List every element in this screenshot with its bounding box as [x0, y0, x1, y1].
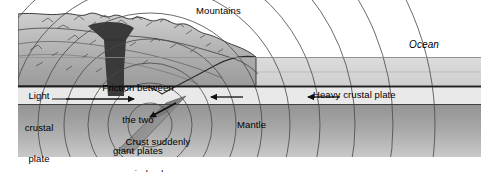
label-light-crustal-plate-line-1: Light	[14, 91, 64, 102]
label-mantle: Mantle	[237, 120, 266, 131]
label-light-crustal-plate-line-2: crustal	[14, 123, 64, 134]
diagram-canvas	[0, 0, 500, 172]
crustal-plate-band	[18, 86, 481, 105]
label-heavy-crustal-plate: Heavy crustal plate	[313, 90, 396, 101]
label-crust-jerks-down: Crust suddenly jerks down	[113, 116, 203, 172]
label-light-crustal-plate: Light crustal plate	[14, 70, 64, 172]
label-mountains: Mountains	[196, 6, 241, 17]
plate-tectonics-diagram: Mountains Ocean Light crustal plate Fric…	[0, 0, 500, 172]
label-ocean: Ocean	[409, 40, 439, 51]
label-light-crustal-plate-line-3: plate	[14, 154, 64, 165]
label-crust-jerks-line-1: Crust suddenly	[113, 137, 203, 148]
label-friction-line-1: Friction between	[96, 83, 180, 94]
mantle-layer	[18, 105, 481, 158]
label-crust-jerks-line-2: jerks down	[113, 169, 203, 173]
